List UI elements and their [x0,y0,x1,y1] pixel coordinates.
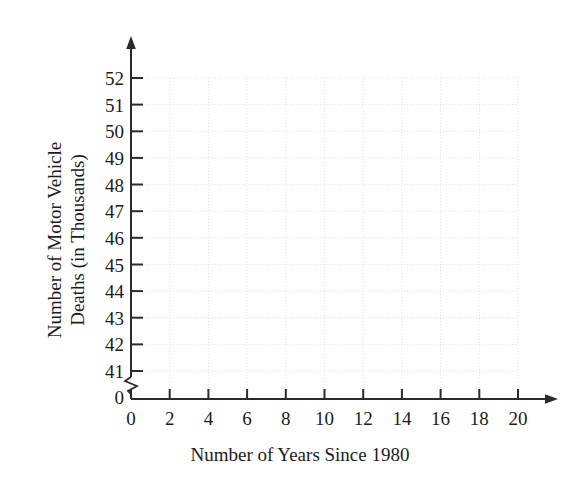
y-tick-label: 52 [105,68,124,89]
y-tick-label: 45 [105,255,124,276]
y-axis-title-line-2: Deaths (in Thousands) [67,154,89,326]
x-tick-label: 20 [509,408,528,429]
y-axis-title: Number of Motor Vehicle Deaths (in Thous… [44,142,89,338]
x-tick-label: 16 [431,408,450,429]
x-tick-label: 4 [204,408,214,429]
y-tick-label: 50 [105,121,124,142]
x-tick-label: 8 [281,408,291,429]
y-tick-label: 49 [105,148,124,169]
x-tick-label: 12 [354,408,373,429]
x-tick-label: 14 [392,408,412,429]
x-tick-label: 2 [165,408,175,429]
y-tick-label: 51 [105,95,124,116]
chart-page: 52 51 50 49 48 47 46 45 44 43 42 41 0 0 … [0,0,582,488]
x-tick-label: 0 [126,408,136,429]
y-tick-label: 46 [105,228,124,249]
x-tick-label: 10 [315,408,334,429]
y-tick-label: 48 [105,175,124,196]
y-tick-label: 43 [105,308,124,329]
y-tick-label: 41 [105,361,124,382]
y-tick-label: 42 [105,334,124,355]
x-tick-label: 6 [242,408,252,429]
x-axis-title: Number of Years Since 1980 [190,444,409,465]
y-axis-origin-label: 0 [115,387,125,408]
coordinate-grid-chart: 52 51 50 49 48 47 46 45 44 43 42 41 0 0 … [0,0,582,488]
y-axis-title-line-1: Number of Motor Vehicle [44,142,65,338]
y-tick-label: 44 [105,281,125,302]
x-tick-label: 18 [470,408,489,429]
y-tick-label: 47 [105,201,124,222]
